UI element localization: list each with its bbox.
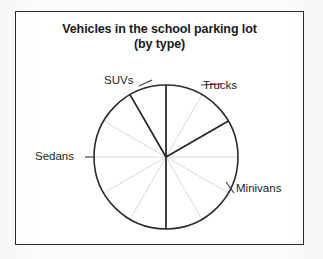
gridline-120 bbox=[166, 157, 228, 193]
slice-divider-trucks-minivans bbox=[166, 121, 228, 157]
gridline-30 bbox=[166, 95, 202, 157]
slice-divider-sedans-suvs bbox=[130, 95, 166, 157]
screenshot-root: Vehicles in the school parking lot (by t… bbox=[0, 0, 323, 259]
pie-leader-lines bbox=[85, 80, 234, 193]
slice-label-trucks: Trucks bbox=[203, 79, 237, 92]
gridline-240 bbox=[104, 157, 166, 193]
slice-label-suvs: SUVs bbox=[104, 74, 133, 87]
pie-chart-svg bbox=[0, 0, 323, 259]
slice-label-sedans: Sedans bbox=[35, 150, 74, 163]
gridline-150 bbox=[166, 157, 202, 219]
gridline-300 bbox=[104, 121, 166, 157]
gridline-210 bbox=[130, 157, 166, 219]
leader-line-suvs bbox=[139, 80, 152, 86]
pie-chart: SUVs Trucks Sedans Minivans bbox=[0, 0, 323, 259]
slice-label-minivans: Minivans bbox=[236, 182, 281, 195]
